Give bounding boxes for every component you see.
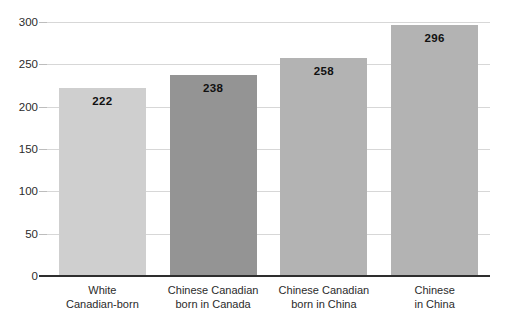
x-axis-category-label: Chinesein China [379, 283, 490, 311]
bar-chart: 050100150200250300 222238258296 WhiteCan… [0, 0, 510, 325]
y-axis-tick-label: 200 [0, 101, 38, 113]
y-axis-tick-label: 0 [0, 270, 38, 282]
bar-value-label: 238 [170, 82, 257, 94]
x-axis-label-line: Canadian-born [47, 297, 158, 311]
x-axis-category-label: Chinese Canadianborn in China [269, 283, 380, 311]
y-axis-tick [39, 191, 47, 192]
y-axis-tick-label: 250 [0, 58, 38, 70]
x-axis-label-line: Chinese [379, 283, 490, 297]
bar-value-label: 222 [59, 95, 146, 107]
y-axis-tick-label: 50 [0, 228, 38, 240]
x-axis-category-label: WhiteCanadian-born [47, 283, 158, 311]
x-axis-label-line: Chinese Canadian [269, 283, 380, 297]
x-axis-labels: WhiteCanadian-bornChinese Canadianborn i… [47, 283, 490, 323]
y-axis-tick [39, 22, 47, 23]
x-axis-label-line: Chinese Canadian [158, 283, 269, 297]
bar[interactable]: 296 [391, 25, 478, 276]
y-axis-tick [39, 149, 47, 150]
x-axis-label-line: born in Canada [158, 297, 269, 311]
bar[interactable]: 222 [59, 88, 146, 276]
y-axis-tick [39, 234, 47, 235]
bar[interactable]: 258 [280, 58, 367, 276]
y-axis-tick [39, 64, 47, 65]
y-axis-tick [39, 107, 47, 108]
x-axis-label-line: in China [379, 297, 490, 311]
x-axis-label-line: born in China [269, 297, 380, 311]
y-axis-tick-label: 300 [0, 16, 38, 28]
bar-value-label: 258 [280, 65, 367, 77]
y-axis-tick-label: 150 [0, 143, 38, 155]
x-axis-label-line: White [47, 283, 158, 297]
x-axis-category-label: Chinese Canadianborn in Canada [158, 283, 269, 311]
bar[interactable]: 238 [170, 75, 257, 277]
x-axis-line [39, 275, 490, 277]
bar-value-label: 296 [391, 32, 478, 44]
y-axis-tick-label: 100 [0, 185, 38, 197]
bars-layer: 222238258296 [47, 22, 490, 276]
plot-area: 050100150200250300 222238258296 [47, 22, 490, 276]
